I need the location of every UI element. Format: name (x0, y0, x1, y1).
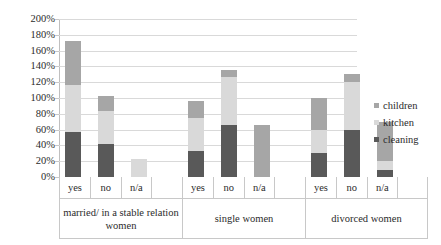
bar-segment-children (188, 101, 204, 118)
gridline (59, 51, 357, 52)
y-axis: 200%180%160%140%120%100%80%60%40%20%0% (0, 19, 55, 177)
bar-no (98, 96, 114, 177)
x-axis-category-no: no (90, 177, 121, 199)
x-axis-group-label: single women (182, 199, 305, 239)
gridline (59, 19, 357, 20)
x-axis-category-no: no (336, 177, 367, 199)
bar-segment-cleaning (344, 130, 360, 177)
bar-segment-children (311, 98, 327, 130)
x-axis-category-yes: yes (182, 177, 213, 199)
plot-area (59, 19, 357, 177)
legend-swatch-icon (374, 103, 379, 108)
bar-segment-kitchen (188, 118, 204, 151)
x-axis-category-blank (274, 177, 305, 199)
x-axis-category-n-a: n/a (367, 177, 398, 199)
y-axis-tick-label: 200% (5, 14, 55, 24)
bar-segment-children (65, 41, 81, 84)
x-axis-category-yes: yes (59, 177, 90, 199)
bar-segment-kitchen (221, 77, 237, 124)
bar-n-a (254, 125, 270, 177)
x-axis-category-n-a: n/a (244, 177, 275, 199)
bar-segment-cleaning (377, 170, 393, 177)
legend-item[interactable]: cleaning (374, 131, 440, 148)
bar-segment-kitchen (311, 130, 327, 154)
chart-legend: childrenkitchencleaning (374, 97, 440, 148)
bar-segment-cleaning (188, 151, 204, 177)
y-axis-tick-label: 160% (5, 46, 55, 56)
bar-segment-cleaning (221, 125, 237, 177)
bar-segment-kitchen (131, 159, 147, 177)
x-axis-group-label: married/ in a stable relation women (59, 199, 182, 239)
gridline (59, 35, 357, 36)
bar-no (344, 74, 360, 177)
y-axis-tick-label: 80% (5, 109, 55, 119)
bar-n-a (131, 159, 147, 177)
y-axis-tick-label: 140% (5, 61, 55, 71)
bar-segment-children (344, 74, 360, 82)
bar-segment-kitchen (65, 85, 81, 132)
bar-segment-children (254, 125, 270, 177)
bar-segment-cleaning (311, 153, 327, 177)
y-axis-tick-label: 100% (5, 93, 55, 103)
bar-segment-kitchen (98, 111, 114, 143)
legend-swatch-icon (374, 120, 379, 125)
bar-yes (188, 101, 204, 177)
x-axis-category-blank (151, 177, 182, 199)
legend-item[interactable]: children (374, 97, 440, 114)
x-axis-category-no: no (213, 177, 244, 199)
legend-label: cleaning (383, 134, 419, 145)
legend-label: children (383, 100, 417, 111)
bar-yes (65, 41, 81, 177)
gridline (59, 82, 357, 83)
legend-label: kitchen (383, 117, 414, 128)
y-axis-tick-label: 120% (5, 77, 55, 87)
legend-swatch-icon (374, 137, 379, 142)
stacked-bar-chart: 200%180%160%140%120%100%80%60%40%20%0% y… (0, 0, 441, 245)
bar-yes (311, 98, 327, 177)
y-axis-tick-label: 0% (5, 172, 55, 182)
y-axis-tick-label: 20% (5, 156, 55, 166)
y-axis-tick-label: 180% (5, 30, 55, 40)
x-axis-category-yes: yes (305, 177, 336, 199)
y-axis-tick-label: 40% (5, 140, 55, 150)
bar-segment-kitchen (344, 82, 360, 129)
x-axis-group-label: divorced women (305, 199, 428, 239)
x-axis-category-blank (397, 177, 428, 199)
legend-item[interactable]: kitchen (374, 114, 440, 131)
gridline (59, 66, 357, 67)
bar-segment-children (221, 70, 237, 78)
bar-segment-kitchen (377, 161, 393, 170)
bar-segment-children (98, 96, 114, 111)
y-axis-tick-label: 60% (5, 125, 55, 135)
bar-segment-cleaning (65, 132, 81, 177)
x-axis-category-n-a: n/a (121, 177, 152, 199)
bar-segment-cleaning (98, 144, 114, 177)
bar-no (221, 70, 237, 177)
